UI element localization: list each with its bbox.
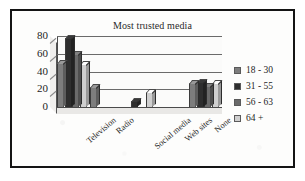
- y-axis-tick-20: 20: [37, 83, 48, 94]
- bar: [146, 92, 153, 107]
- bar: [131, 101, 138, 107]
- bar-group: [123, 36, 156, 107]
- plot-area: [50, 36, 222, 114]
- x-axis-label: Television: [84, 115, 117, 145]
- y-axis-tick-40: 40: [37, 65, 48, 76]
- bar-group: [189, 36, 222, 107]
- bars-layer: [57, 36, 222, 107]
- plot-floor: [57, 107, 222, 114]
- legend-item: 56 - 63: [234, 95, 300, 110]
- legend-label: 18 - 30: [246, 66, 273, 76]
- legend-label: 56 - 63: [246, 98, 273, 108]
- legend-swatch-icon: [234, 99, 241, 106]
- y-axis-tick-0: 0: [43, 101, 49, 112]
- chart-title: Most trusted media: [12, 20, 293, 31]
- y-axis-tick-80: 80: [37, 30, 48, 41]
- legend-label: 31 - 55: [246, 82, 273, 92]
- bar-group: [156, 36, 189, 107]
- bar-group: [90, 36, 123, 107]
- legend-label: 64 +: [246, 114, 263, 124]
- legend-item: 64 +: [234, 111, 300, 126]
- y-axis-tick-60: 60: [37, 47, 48, 58]
- bar: [57, 63, 64, 107]
- legend-swatch-icon: [234, 115, 241, 122]
- legend-swatch-icon: [234, 67, 241, 74]
- bar: [90, 87, 97, 107]
- x-axis-label: None: [212, 115, 233, 135]
- chart-legend: 18 - 3031 - 5556 - 6364 +: [234, 63, 300, 127]
- legend-item: 18 - 30: [234, 63, 300, 78]
- x-axis-label: Radio: [114, 115, 136, 136]
- legend-item: 31 - 55: [234, 79, 300, 94]
- bar: [189, 83, 196, 107]
- x-axis: TelevisionRadioSocial mediaWeb sitesNone: [50, 115, 235, 165]
- y-axis: 020406080: [24, 35, 48, 111]
- bar-group: [57, 36, 90, 107]
- legend-swatch-icon: [234, 83, 241, 90]
- figure-frame: Most trusted media 020406080 TelevisionR…: [10, 9, 295, 168]
